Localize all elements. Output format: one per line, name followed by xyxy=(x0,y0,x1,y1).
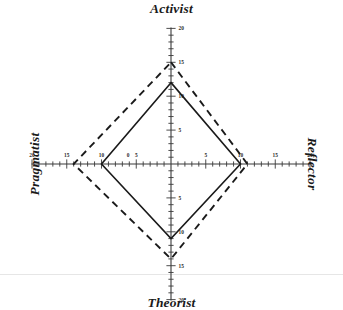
axis-origin-label: 0 xyxy=(127,152,130,158)
axis-title-activist: Activist xyxy=(0,1,343,17)
axis-title-theorist: Theorist xyxy=(0,295,343,310)
axis-tick-label: 15 xyxy=(179,263,185,269)
axis-tick-label: 5 xyxy=(204,152,207,158)
axis-tick-label: 5 xyxy=(135,152,138,158)
series-dashed-polygon xyxy=(74,62,248,259)
axis-tick-label: 5 xyxy=(179,127,182,133)
radar-chart-figure: 51015205101520510152051015200 Activist R… xyxy=(0,0,343,310)
axis-title-reflector: Reflector xyxy=(305,138,321,191)
axis-tick-label: 15 xyxy=(179,59,185,65)
axis-tick-label: 15 xyxy=(64,152,70,158)
axis-tick-label: 5 xyxy=(179,195,182,201)
axis-tick-label: 20 xyxy=(179,25,185,31)
axis-title-pragmatist: Pragmatist xyxy=(27,133,43,196)
axis-tick-label: 15 xyxy=(273,152,279,158)
axis-tick-label: 10 xyxy=(99,152,105,158)
radar-plot-canvas: 51015205101520510152051015200 xyxy=(0,0,343,310)
